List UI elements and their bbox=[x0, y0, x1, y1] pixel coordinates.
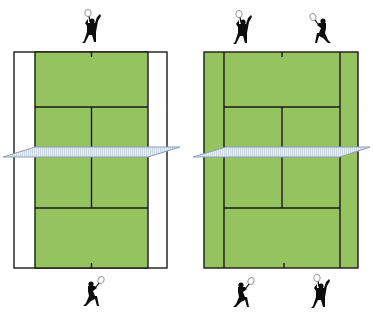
singles-court bbox=[3, 9, 180, 306]
player-icon-top-right bbox=[309, 12, 331, 43]
player-icon-bottom-right bbox=[311, 274, 330, 308]
player-icon-top bbox=[82, 9, 101, 43]
net bbox=[193, 147, 370, 157]
player-icon-bottom-left bbox=[233, 276, 255, 307]
tennis-court-diagrams bbox=[0, 0, 373, 313]
court-outline bbox=[204, 52, 358, 268]
player-icon-bottom bbox=[83, 275, 105, 306]
doubles-court bbox=[193, 10, 370, 308]
player-icon-top-left bbox=[233, 10, 252, 44]
net bbox=[3, 147, 180, 157]
